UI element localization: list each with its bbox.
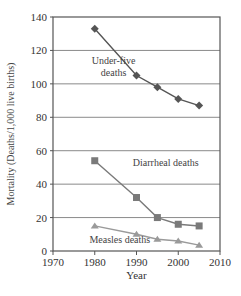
x-tick-label: 1990 — [126, 256, 149, 268]
triangle-marker — [91, 222, 99, 228]
plot-frame — [53, 17, 220, 251]
y-tick-label: 60 — [36, 145, 48, 157]
x-axis-title: Year — [126, 269, 147, 281]
y-tick-label: 80 — [36, 111, 48, 123]
x-tick-label: 1980 — [84, 256, 107, 268]
series-annotation: Diarrheal deaths — [133, 157, 199, 168]
square-marker — [196, 222, 203, 229]
x-tick-label: 1970 — [42, 256, 65, 268]
y-tick-label: 140 — [31, 11, 48, 23]
diamond-marker — [153, 83, 161, 91]
y-tick-label: 20 — [36, 212, 48, 224]
y-tick-label: 40 — [36, 178, 48, 190]
square-marker — [91, 157, 98, 164]
mortality-chart: 02040608010012014019701980199020002010Ye… — [0, 0, 241, 296]
diamond-marker — [174, 95, 182, 103]
y-tick-label: 100 — [31, 78, 48, 90]
square-marker — [154, 214, 161, 221]
series-annotation: deaths — [101, 67, 127, 78]
x-tick-label: 2000 — [167, 256, 190, 268]
x-tick-label: 2010 — [209, 256, 232, 268]
series-annotation: Under-five — [92, 55, 136, 66]
diamond-marker — [195, 102, 203, 110]
series-line — [95, 161, 199, 226]
square-marker — [133, 194, 140, 201]
series-annotation: Measles deaths — [89, 234, 150, 245]
y-axis-title: Mortality (Deaths/1,000 live births) — [5, 63, 17, 206]
y-tick-label: 120 — [31, 44, 48, 56]
square-marker — [175, 221, 182, 228]
